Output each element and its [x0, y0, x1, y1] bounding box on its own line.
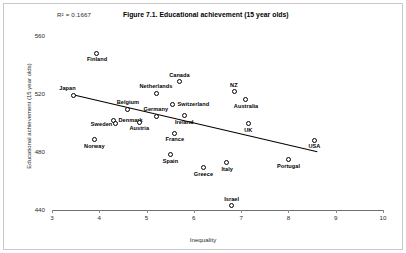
x-axis-tick-mark — [288, 210, 289, 213]
data-point-label: Spain — [163, 158, 178, 164]
data-point[interactable] — [137, 120, 142, 125]
data-point-label: Italy — [221, 166, 232, 172]
data-point-label: UK — [244, 127, 252, 133]
data-point-label: Israel — [224, 196, 239, 202]
data-point-label: Canada — [169, 72, 190, 78]
data-point-label: Portugal — [277, 163, 300, 169]
x-axis-tick-label: 4 — [91, 214, 107, 221]
x-axis-tick-mark — [52, 210, 53, 213]
y-axis-tick-label: 440 — [21, 206, 45, 213]
data-point[interactable] — [71, 93, 76, 98]
y-axis-tick-label: 560 — [21, 32, 45, 39]
data-point[interactable] — [154, 91, 159, 96]
data-point[interactable] — [125, 107, 130, 112]
data-point-label: Netherlands — [140, 83, 173, 89]
data-point[interactable] — [154, 114, 159, 119]
x-axis-tick-mark — [383, 210, 384, 213]
data-point-label: Japan — [59, 85, 75, 91]
data-point-label: Norway — [84, 143, 105, 149]
x-axis-tick-mark — [194, 210, 195, 213]
r-squared-annotation: R² = 0.1667 — [57, 11, 91, 18]
data-point-label: France — [165, 136, 184, 142]
x-axis-tick-label: 9 — [328, 214, 344, 221]
x-axis-tick-mark — [99, 210, 100, 213]
data-point-label: USA — [308, 143, 320, 149]
x-axis-tick-mark — [336, 210, 337, 213]
x-axis-line — [52, 210, 383, 211]
data-point-label: NZ — [230, 82, 238, 88]
x-axis-tick-mark — [147, 210, 148, 213]
y-axis-label: Educational achievement (15 year olds) — [26, 41, 32, 191]
data-point-label: Switzerland — [178, 101, 210, 107]
y-axis-tick-label: 480 — [21, 148, 45, 155]
x-axis-tick-label: 10 — [375, 214, 391, 221]
x-axis-tick-mark — [241, 210, 242, 213]
data-point-label: Austria — [129, 125, 149, 131]
data-point[interactable] — [170, 102, 175, 107]
x-axis-tick-label: 8 — [280, 214, 296, 221]
data-point[interactable] — [312, 138, 317, 143]
data-point[interactable] — [246, 121, 251, 126]
x-axis-tick-label: 3 — [44, 214, 60, 221]
y-axis-tick-label: 520 — [21, 90, 45, 97]
x-axis-tick-label: 6 — [186, 214, 202, 221]
chart-title: Figure 7.1. Educational achievement (15 … — [123, 11, 289, 18]
data-point-label: Belgium — [117, 99, 139, 105]
data-point-label: Finland — [87, 56, 107, 62]
figure-border — [3, 3, 403, 250]
data-point-label: Germany — [144, 106, 169, 112]
x-axis-tick-label: 5 — [139, 214, 155, 221]
x-axis-label: Inequality — [0, 236, 406, 243]
data-point-label: Ireland — [175, 119, 194, 125]
data-point[interactable] — [232, 89, 237, 94]
data-point-label: Greece — [194, 171, 213, 177]
data-point-label: Sweden — [91, 121, 112, 127]
figure-container: R² = 0.1667 Figure 7.1. Educational achi… — [0, 0, 406, 253]
data-point-label: Australia — [234, 103, 258, 109]
x-axis-tick-label: 7 — [233, 214, 249, 221]
